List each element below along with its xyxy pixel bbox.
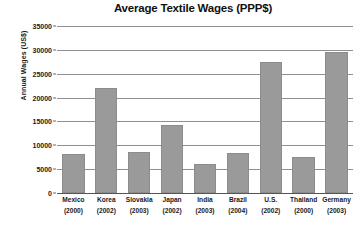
bar[interactable] — [292, 157, 314, 193]
y-tick-label: 15000 — [33, 118, 52, 125]
y-tick-mark — [53, 73, 56, 74]
bar[interactable] — [128, 152, 150, 194]
x-category-name: Thailand — [290, 196, 317, 203]
bar[interactable] — [62, 154, 84, 193]
bar[interactable] — [260, 62, 282, 193]
y-tick-mark — [53, 121, 56, 122]
x-category-name: Japan — [163, 196, 182, 203]
y-tick-mark — [53, 145, 56, 146]
x-axis-category: India(2003) — [189, 195, 222, 216]
x-category-year: (2002) — [254, 206, 287, 217]
bar-slot — [57, 26, 90, 193]
x-category-year: (2002) — [156, 206, 189, 217]
bar[interactable] — [95, 88, 117, 193]
y-tick-label: 35000 — [33, 23, 52, 30]
x-axis-category: Brazil(2004) — [221, 195, 254, 216]
x-category-year: (2003) — [123, 206, 156, 217]
x-category-name: Germany — [322, 196, 351, 203]
x-category-year: (2002) — [90, 206, 123, 217]
y-tick-label: 25000 — [33, 70, 52, 77]
gridline — [57, 193, 353, 194]
x-axis-category: Thailand(2000) — [287, 195, 320, 216]
bar-slot — [221, 26, 254, 193]
chart-title: Average Textile Wages (PPP$) — [78, 2, 308, 14]
bar[interactable] — [161, 125, 183, 193]
bar-slot — [287, 26, 320, 193]
x-category-name: India — [197, 196, 212, 203]
x-axis-category: Korea(2002) — [90, 195, 123, 216]
x-axis-category: Slovakia(2003) — [123, 195, 156, 216]
y-tick-label: 20000 — [33, 94, 52, 101]
y-tick-label: 10000 — [33, 142, 52, 149]
y-tick-mark — [53, 169, 56, 170]
bar-slot — [90, 26, 123, 193]
y-tick-mark — [53, 26, 56, 27]
bar-slot — [123, 26, 156, 193]
x-axis-category: U.S.(2002) — [254, 195, 287, 216]
plot-area: 05000100001500020000250003000035000 — [57, 26, 353, 193]
x-category-year: (2003) — [320, 206, 353, 217]
bar-series — [57, 26, 353, 193]
x-axis-category: Japan(2002) — [156, 195, 189, 216]
y-tick-label: 0 — [48, 190, 52, 197]
x-category-name: Korea — [97, 196, 116, 203]
bar-slot — [254, 26, 287, 193]
x-category-name: U.S. — [264, 196, 277, 203]
y-tick-mark — [53, 97, 56, 98]
x-axis-category: Mexico(2000) — [57, 195, 90, 216]
x-category-name: Mexico — [62, 196, 84, 203]
bar-slot — [320, 26, 353, 193]
bar[interactable] — [194, 164, 216, 193]
x-category-name: Slovakia — [126, 196, 153, 203]
bar[interactable] — [325, 52, 347, 193]
bar[interactable] — [227, 153, 249, 193]
x-category-year: (2004) — [221, 206, 254, 217]
x-category-year: (2000) — [57, 206, 90, 217]
x-category-year: (2003) — [189, 206, 222, 217]
y-tick-label: 5000 — [36, 166, 52, 173]
x-axis-category: Germany(2003) — [320, 195, 353, 216]
y-tick-mark — [53, 49, 56, 50]
y-axis-title: Annual Wages (US$) — [20, 1, 27, 131]
bar-slot — [156, 26, 189, 193]
y-tick-label: 30000 — [33, 46, 52, 53]
x-category-name: Brazil — [229, 196, 247, 203]
y-tick-mark — [53, 193, 56, 194]
x-axis-labels: Mexico(2000)Korea(2002)Slovakia(2003)Jap… — [57, 195, 353, 227]
x-category-year: (2000) — [287, 206, 320, 217]
bar-chart: Average Textile Wages (PPP$) Annual Wage… — [0, 0, 359, 227]
bar-slot — [189, 26, 222, 193]
